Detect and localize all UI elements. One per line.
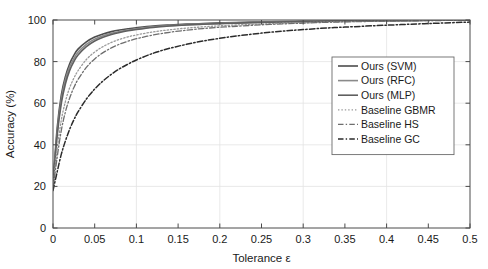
x-tick-label: 0.3 bbox=[296, 233, 311, 245]
y-tick-label: 40 bbox=[34, 139, 46, 151]
x-tick-label: 0.05 bbox=[84, 233, 105, 245]
legend-label: Baseline GC bbox=[361, 133, 420, 145]
legend-label: Ours (MLP) bbox=[361, 89, 415, 101]
x-tick-label: 0.5 bbox=[462, 233, 477, 245]
x-tick-label: 0.1 bbox=[129, 233, 144, 245]
y-axis-title: Accuracy (%) bbox=[4, 90, 16, 159]
chart-figure: 00.050.10.150.20.250.30.350.40.450.50204… bbox=[0, 0, 488, 269]
y-tick-label: 0 bbox=[40, 222, 46, 234]
x-tick-label: 0.35 bbox=[334, 233, 355, 245]
x-axis-title: Tolerance ε bbox=[232, 252, 290, 264]
legend-label: Baseline GBMR bbox=[361, 104, 436, 116]
legend-label: Ours (RFC) bbox=[361, 74, 415, 86]
x-tick-label: 0.4 bbox=[379, 233, 394, 245]
legend-label: Baseline HS bbox=[361, 118, 419, 130]
legend-label: Ours (SVM) bbox=[361, 60, 416, 72]
y-tick-label: 20 bbox=[34, 180, 46, 192]
accuracy-vs-tolerance-chart: 00.050.10.150.20.250.30.350.40.450.50204… bbox=[0, 0, 488, 269]
y-tick-label: 100 bbox=[28, 14, 46, 26]
x-tick-label: 0.15 bbox=[167, 233, 188, 245]
y-tick-label: 80 bbox=[34, 56, 46, 68]
y-tick-label: 60 bbox=[34, 97, 46, 109]
x-tick-label: 0.25 bbox=[251, 233, 272, 245]
x-tick-label: 0.45 bbox=[418, 233, 439, 245]
x-tick-label: 0 bbox=[50, 233, 56, 245]
chart-legend: Ours (SVM)Ours (RFC)Ours (MLP)Baseline G… bbox=[332, 57, 454, 155]
x-tick-label: 0.2 bbox=[212, 233, 227, 245]
